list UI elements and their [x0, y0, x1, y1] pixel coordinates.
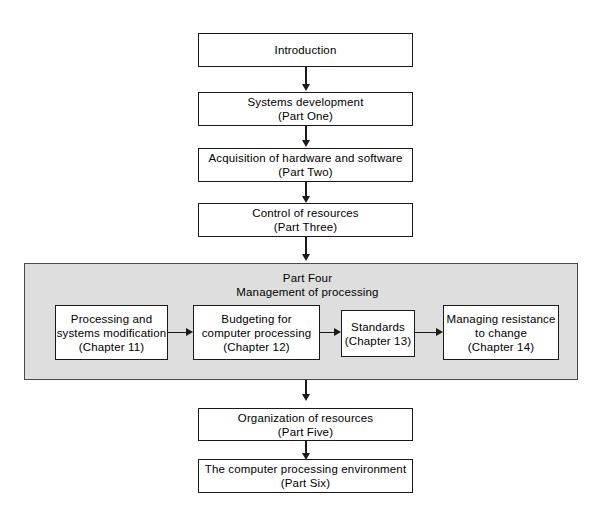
node-line-1: Organization of resources [238, 411, 373, 425]
node-line-1: Managing resistance [447, 312, 556, 326]
connector-introduction-to-systems-development [305, 67, 307, 85]
node-line-1: Introduction [275, 43, 337, 57]
flow-node-managing-resistance-to-change: Managing resistance to change (Chapter 1… [443, 305, 559, 360]
node-line-3: (Chapter 12) [223, 340, 289, 354]
node-line-1: Standards [351, 320, 405, 334]
flow-node-systems-development: Systems development (Part One) [198, 92, 413, 126]
node-line-1: Acquisition of hardware and software [209, 151, 403, 165]
node-line-3: (Chapter 11) [79, 340, 145, 354]
arrowhead-down-2 [302, 140, 310, 147]
node-line-1: Processing and [71, 312, 152, 326]
arrowhead-right-1 [186, 328, 193, 336]
node-line-2: (Part Two) [278, 165, 332, 179]
arrowhead-right-3 [436, 328, 443, 336]
node-line-2: (Part Three) [274, 220, 338, 234]
flow-node-standards: Standards (Chapter 13) [341, 310, 415, 357]
flow-node-introduction: Introduction [198, 33, 413, 67]
node-line-1: Control of resources [252, 206, 359, 220]
flow-node-control-of-resources: Control of resources (Part Three) [198, 203, 413, 237]
node-line-3: (Chapter 14) [468, 340, 534, 354]
part-four-heading-line-2: Management of processing [0, 285, 615, 299]
arrowhead-down-3 [302, 196, 310, 203]
flow-node-processing-and-systems-modification: Processing and systems modification (Cha… [55, 305, 168, 360]
part-four-heading-line-1: Part Four [0, 271, 615, 285]
node-line-1: The computer processing environment [205, 462, 407, 476]
node-line-2: to change [475, 326, 527, 340]
node-line-2: (Chapter 13) [345, 334, 411, 348]
arrowhead-right-2 [334, 328, 341, 336]
flowchart-diagram: Introduction Systems development (Part O… [0, 0, 615, 521]
node-line-2: (Part One) [278, 109, 333, 123]
part-four-heading: Part Four Management of processing [0, 271, 615, 299]
flow-node-budgeting-for-computer-processing: Budgeting for computer processing (Chapt… [193, 305, 320, 360]
arrowhead-down-1 [302, 84, 310, 91]
node-line-2: systems modification [57, 326, 167, 340]
node-line-2: (Part Five) [278, 425, 333, 439]
arrowhead-down-4 [302, 254, 310, 261]
arrowhead-down-5 [302, 394, 310, 401]
connector-chapter12-to-chapter13 [320, 332, 334, 334]
node-line-1: Systems development [248, 95, 364, 109]
connector-control-of-resources-to-part-four [305, 237, 307, 255]
flow-node-acquisition: Acquisition of hardware and software (Pa… [198, 148, 413, 182]
flow-node-computer-processing-environment: The computer processing environment (Par… [198, 459, 413, 493]
node-line-2: computer processing [202, 326, 312, 340]
node-line-1: Budgeting for [221, 312, 291, 326]
node-line-2: (Part Six) [281, 476, 330, 490]
connector-chapter13-to-chapter14 [415, 332, 436, 334]
connector-chapter11-to-chapter12 [168, 332, 186, 334]
flow-node-organization-of-resources: Organization of resources (Part Five) [198, 408, 413, 441]
